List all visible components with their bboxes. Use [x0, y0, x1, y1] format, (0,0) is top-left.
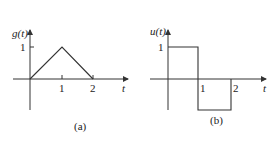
plot-a-xtick-label-2: 2	[90, 82, 96, 94]
figure-canvas: g(t) 1 1 2 t (a) u(t) 1 1 2 t (b)	[0, 0, 272, 141]
plot-b-ylabel: u(t)	[150, 25, 166, 38]
plot-a-xlabel: t	[122, 82, 126, 94]
plot-b-xtick-label-2: 2	[233, 82, 239, 94]
plot-b-xlabel: t	[263, 82, 267, 94]
plot-b: u(t) 1 1 2 t (b)	[150, 25, 267, 127]
plot-b-xtick-label-1: 1	[200, 82, 206, 94]
plot-a-triangle-curve	[30, 47, 93, 79]
plot-a-ytick-label: 1	[20, 41, 26, 53]
plot-b-ytick-label: 1	[158, 41, 164, 53]
plot-a-caption: (a)	[74, 120, 87, 133]
plot-a: g(t) 1 1 2 t (a)	[12, 27, 128, 133]
plot-b-caption: (b)	[210, 114, 223, 127]
plot-a-xtick-label-1: 1	[59, 82, 65, 94]
plot-a-ylabel: g(t)	[12, 27, 28, 40]
